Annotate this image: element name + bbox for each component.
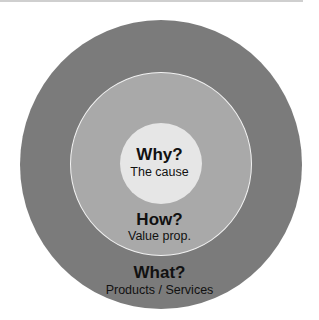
what-subtitle: Products / Services	[0, 284, 319, 297]
how-title: How?	[0, 211, 319, 228]
why-subtitle: The cause	[0, 166, 319, 179]
what-title: What?	[0, 264, 319, 281]
top-divider	[0, 0, 303, 2]
how-subtitle: Value prop.	[0, 230, 319, 243]
why-title: Why?	[0, 146, 319, 163]
